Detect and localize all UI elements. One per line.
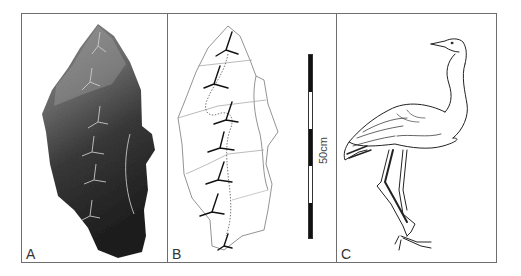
scale-segment-2: [309, 92, 312, 129]
scale-bar: [308, 54, 313, 239]
scale-label: 50cm: [317, 137, 329, 164]
panel-label-a: A: [26, 247, 35, 261]
crane-feet: [395, 236, 431, 250]
panel-a: A: [22, 14, 168, 262]
panel-b: 50cm B: [168, 14, 337, 262]
traced-footprints: [200, 32, 238, 250]
panel-label-c: C: [341, 247, 351, 261]
crane-head: [431, 39, 466, 64]
scale-segment-1: [309, 55, 312, 92]
trackway-stipple: [206, 54, 232, 236]
crane-drawing: [337, 14, 497, 264]
scale-segment-3: [309, 129, 312, 166]
scale-segment-5: [309, 203, 312, 238]
panel-label-b: B: [172, 247, 181, 261]
panel-c: C: [337, 14, 497, 262]
slab-photo: [22, 14, 168, 264]
crane-neck: [453, 64, 467, 138]
figure-frame: A: [21, 13, 497, 263]
scale-segment-4: [309, 166, 312, 203]
